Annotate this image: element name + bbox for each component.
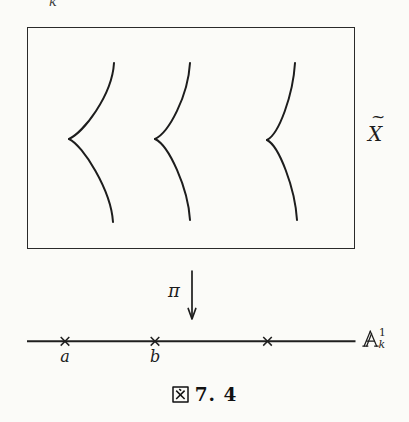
affine-line-label: 1 k (362, 327, 402, 353)
cusp-curve-3-top (267, 63, 295, 140)
cusp-curve-1-top (69, 63, 114, 139)
down-arrow (180, 268, 206, 326)
cusp-curve-2-top (155, 63, 190, 139)
figure-page: k ~ X π (0, 0, 409, 422)
total-space-letter: X (364, 124, 386, 144)
double-struck-A-glyph (362, 330, 379, 348)
figure-caption: 7. 4 (0, 384, 409, 408)
kanji-zu-figure-glyph (172, 386, 189, 403)
affine-superscript: 1 (379, 326, 386, 338)
cusp-curve-1-bottom (69, 139, 113, 222)
cusp-curve-3-bottom (267, 140, 297, 220)
projection-map-label: π (168, 280, 180, 301)
cusp-curve-2-bottom (155, 139, 190, 220)
point-label-b: b (145, 347, 165, 366)
total-space-label: ~ X (364, 118, 386, 146)
tilde-accent: ~ (367, 111, 389, 121)
point-label-a: a (55, 347, 75, 366)
affine-subscript: k (379, 338, 386, 351)
figure-number: 7. 4 (195, 384, 238, 405)
